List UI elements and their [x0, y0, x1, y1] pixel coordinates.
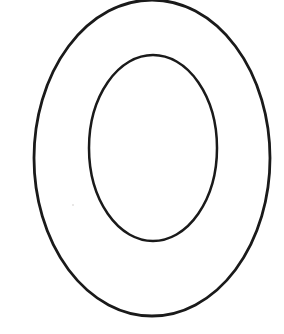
letter-o-artwork — [0, 0, 284, 334]
page-background — [0, 0, 284, 334]
page-canvas — [0, 0, 284, 334]
